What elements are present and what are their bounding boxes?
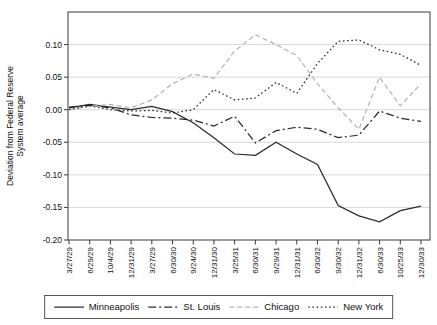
legend-line-sample [229, 303, 259, 311]
series-line-minneapolis [69, 105, 421, 222]
y-tick-label: 0.05 [45, 72, 62, 82]
x-axis-ticks: 3/27/296/29/2910/4/2912/31/293/27/296/30… [65, 240, 426, 278]
y-axis-title-line1: Deviation from Federal Reserve [5, 66, 15, 186]
x-tick-label: 12/31/31 [293, 246, 302, 278]
legend-line-sample [54, 303, 84, 311]
x-tick-label: 10/25/33 [396, 246, 405, 278]
y-tick-label: 0.00 [45, 105, 62, 115]
y-tick-label: 0.10 [45, 40, 62, 50]
y-tick-label: -0.15 [43, 202, 63, 212]
series-line-chicago [69, 35, 421, 130]
legend-label: Minneapolis [89, 302, 140, 312]
legend-label: Chicago [264, 302, 299, 312]
series-line-new-york [69, 40, 421, 113]
x-tick-label: 9/30/32 [334, 246, 343, 273]
x-tick-label: 6/30/33 [376, 246, 385, 273]
x-tick-label: 3/25/31 [231, 246, 240, 273]
y-tick-label: -0.10 [43, 170, 63, 180]
legend-line-sample [148, 303, 178, 311]
x-tick-label: 9/24/30 [189, 246, 198, 273]
x-tick-label: 3/27/29 [148, 246, 157, 273]
x-tick-label: 12/30/33 [417, 246, 426, 278]
x-tick-label: 6/30/31 [251, 246, 260, 273]
legend-line-sample [308, 303, 338, 311]
x-tick-label: 6/29/29 [86, 246, 95, 273]
legend-item-st-louis: St. Louis [148, 302, 220, 312]
chart-figure: 0.100.050.00-0.05-0.10-0.15-0.20 3/27/29… [0, 0, 437, 325]
series-line-st-louis [69, 105, 421, 143]
legend: MinneapolisSt. LouisChicagoNew York [44, 295, 394, 319]
legend-item-chicago: Chicago [229, 302, 299, 312]
y-axis-title-line2: System average [15, 95, 25, 157]
plot-frame [68, 12, 430, 240]
legend-label: New York [343, 302, 383, 312]
line-chart: 0.100.050.00-0.05-0.10-0.15-0.20 3/27/29… [0, 0, 437, 325]
y-tick-label: -0.20 [43, 235, 63, 245]
x-tick-label: 6/30/30 [169, 246, 178, 273]
x-tick-label: 12/31/29 [127, 246, 136, 278]
legend-label: St. Louis [183, 302, 220, 312]
x-tick-label: 3/27/29 [65, 246, 74, 273]
y-tick-label: -0.05 [43, 137, 63, 147]
x-tick-label: 9/29/31 [272, 246, 281, 273]
legend-item-minneapolis: Minneapolis [54, 302, 140, 312]
series-lines [69, 35, 421, 222]
y-axis-ticks: 0.100.050.00-0.05-0.10-0.15-0.20 [43, 40, 68, 245]
x-tick-label: 6/30/32 [313, 246, 322, 273]
x-tick-label: 12/31/32 [355, 246, 364, 278]
legend-item-new-york: New York [308, 302, 383, 312]
x-tick-label: 12/31/30 [210, 246, 219, 278]
gridlines [69, 45, 431, 208]
x-tick-label: 10/4/29 [106, 246, 115, 273]
